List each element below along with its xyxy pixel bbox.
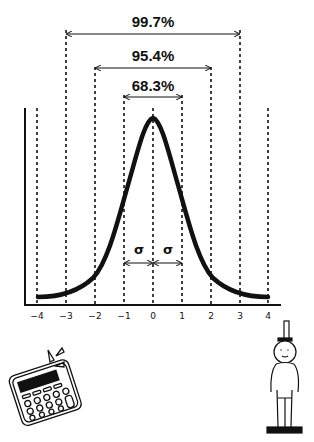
range-label-683: 68.3% [132, 77, 175, 94]
tick-label: 4 [265, 311, 271, 321]
sigma-label-right: σ [163, 242, 173, 257]
sigma-label-left: σ [134, 242, 144, 257]
tick-label: 0 [150, 311, 156, 321]
tick-label: 2 [208, 311, 214, 321]
scale-platform [267, 427, 302, 433]
tick-label: −2 [88, 311, 101, 321]
guide-lines [37, 30, 268, 304]
range-label-997: 99.7% [132, 13, 175, 30]
tick-label: −1 [117, 311, 130, 321]
tick-label: −3 [59, 311, 72, 321]
calculator-icon [8, 358, 83, 427]
normal-distribution-diagram: 99.7% 95.4% 68.3% σ σ −4 −3 −2 −1 0 1 2 … [0, 0, 314, 442]
person-head [274, 341, 296, 363]
x-tick-labels: −4 −3 −2 −1 0 1 2 3 4 [30, 311, 271, 321]
tick-label: −4 [30, 311, 44, 321]
person-body [271, 363, 299, 428]
person-on-scale-icon [267, 321, 302, 433]
tick-label: 3 [237, 311, 243, 321]
tick-label: 1 [179, 311, 185, 321]
range-label-954: 95.4% [132, 47, 175, 64]
